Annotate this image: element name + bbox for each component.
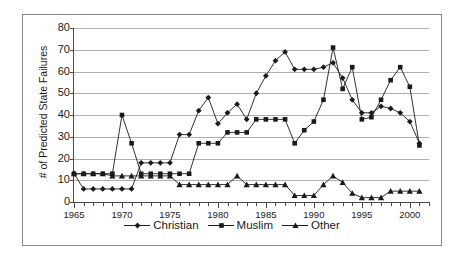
x-axis-tick-minor	[343, 203, 344, 206]
series-other	[71, 171, 423, 201]
x-axis-tick-major	[170, 203, 171, 208]
x-axis-tick-minor	[429, 203, 430, 206]
x-axis-tick-minor	[237, 203, 238, 206]
data-point-marker	[129, 186, 135, 192]
x-axis-tick-major	[314, 203, 315, 208]
data-point-marker	[292, 141, 297, 146]
x-axis-tick-minor	[93, 203, 94, 206]
y-axis-tick-label: 40	[44, 109, 70, 120]
data-point-marker	[100, 186, 106, 192]
data-point-marker	[253, 90, 259, 96]
x-axis-tick-minor	[275, 203, 276, 206]
x-axis-tick-minor	[304, 203, 305, 206]
plot-area: 01020304050607080 1965197019751980198519…	[74, 28, 429, 202]
x-axis-tick-minor	[256, 203, 257, 206]
data-point-marker	[379, 97, 384, 102]
chart-figure: # of Predicted State Failures 0102030405…	[22, 14, 442, 246]
data-point-marker	[81, 186, 87, 192]
y-axis-tick-label: 80	[44, 22, 70, 33]
data-point-marker	[186, 132, 192, 138]
y-axis-tick-label: 0	[44, 196, 70, 207]
x-axis-tick-minor	[199, 203, 200, 206]
data-point-marker	[263, 73, 269, 79]
x-axis-tick-minor	[84, 203, 85, 206]
data-point-marker	[388, 78, 393, 83]
legend-entry-muslim[interactable]: Muslim	[208, 219, 273, 231]
y-axis-tick-label: 60	[44, 66, 70, 77]
data-point-marker	[283, 117, 288, 122]
x-axis-tick-minor	[208, 203, 209, 206]
x-axis-tick-minor	[160, 203, 161, 206]
data-point-marker	[157, 160, 163, 166]
y-axis-tick-label: 70	[44, 44, 70, 55]
data-point-marker	[138, 160, 144, 166]
data-point-marker	[167, 160, 173, 166]
y-axis-tick-label: 50	[44, 87, 70, 98]
data-point-marker	[388, 106, 394, 112]
x-axis-tick-major	[218, 203, 219, 208]
x-axis-tick-minor	[352, 203, 353, 206]
chart-legend: ChristianMuslimOther	[23, 217, 441, 233]
data-point-marker	[340, 179, 346, 185]
data-point-marker	[417, 143, 422, 148]
data-point-marker	[350, 65, 355, 70]
plot-region: 01020304050607080 1965197019751980198519…	[74, 28, 429, 202]
data-point-marker	[177, 171, 182, 176]
data-point-marker	[331, 45, 336, 50]
data-point-marker	[321, 97, 326, 102]
x-axis-tick-major	[122, 203, 123, 208]
y-axis-tick-label: 30	[44, 131, 70, 142]
x-axis-tick-minor	[189, 203, 190, 206]
data-point-marker	[264, 117, 269, 122]
x-axis-tick-major	[362, 203, 363, 208]
x-axis-tick-major	[74, 203, 75, 208]
x-axis-tick-minor	[112, 203, 113, 206]
data-point-marker	[369, 115, 374, 120]
x-axis-tick-minor	[295, 203, 296, 206]
legend-entry-other[interactable]: Other	[282, 219, 340, 231]
data-point-marker	[90, 186, 96, 192]
x-axis-tick-major	[266, 203, 267, 208]
data-point-marker	[234, 173, 240, 179]
legend-entry-christian[interactable]: Christian	[124, 219, 198, 231]
data-point-marker	[301, 66, 307, 72]
legend-triangle-icon	[282, 219, 308, 231]
data-point-marker	[273, 117, 278, 122]
data-point-marker	[119, 186, 125, 192]
x-axis-tick-minor	[103, 203, 104, 206]
x-axis-tick-minor	[141, 203, 142, 206]
data-point-marker	[254, 117, 259, 122]
x-axis-tick-minor	[285, 203, 286, 206]
x-axis-tick-minor	[247, 203, 248, 206]
data-point-marker	[360, 117, 365, 122]
x-axis-tick-minor	[151, 203, 152, 206]
data-point-marker	[225, 130, 230, 135]
y-axis-tick-label: 10	[44, 174, 70, 185]
data-point-marker	[311, 66, 317, 72]
data-point-marker	[206, 141, 211, 146]
data-point-marker	[235, 130, 240, 135]
y-axis-tick-label: 20	[44, 153, 70, 164]
x-axis-tick-minor	[132, 203, 133, 206]
x-axis-tick-minor	[400, 203, 401, 206]
legend-square-icon	[208, 219, 234, 231]
x-axis-tick-major	[410, 203, 411, 208]
data-point-marker	[244, 116, 250, 122]
legend-label: Muslim	[237, 219, 273, 231]
x-axis-tick-minor	[228, 203, 229, 206]
data-point-marker	[312, 119, 317, 124]
data-point-marker	[398, 65, 403, 70]
data-point-marker	[321, 64, 327, 70]
series-muslim	[72, 45, 422, 176]
legend-label: Other	[311, 219, 340, 231]
data-point-marker	[196, 141, 201, 146]
legend-diamond-icon	[124, 219, 150, 231]
data-point-marker	[302, 128, 307, 133]
data-point-marker	[187, 171, 192, 176]
data-point-marker	[292, 66, 298, 72]
x-axis-tick-minor	[323, 203, 324, 206]
x-axis-tick-minor	[381, 203, 382, 206]
data-point-marker	[244, 130, 249, 135]
data-point-marker	[340, 87, 345, 92]
data-point-marker	[177, 132, 183, 138]
